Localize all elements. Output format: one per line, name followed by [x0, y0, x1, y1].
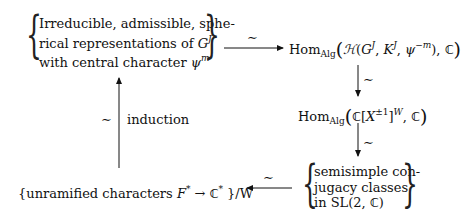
induction-label: induction: [127, 112, 189, 127]
close-brace: }: [402, 155, 418, 213]
tilde-right-1: ∼: [363, 72, 374, 87]
tilde-right-2: ∼: [363, 135, 374, 150]
close-brace: }: [204, 6, 220, 64]
node-unramified-characters: {unramified characters F* → ℂ* }/W: [18, 181, 253, 202]
tilde-left: ∼: [101, 112, 112, 127]
node-hom-hecke: HomAlg(ℋ(GJ, KJ, ψ−m), ℂ): [289, 37, 461, 62]
tilde-top: ∼: [247, 30, 258, 45]
tilde-bottom: ∼: [263, 170, 274, 185]
node-hom-weyl-invariants: HomAlg(ℂ[X±1]W, ℂ): [298, 104, 427, 129]
